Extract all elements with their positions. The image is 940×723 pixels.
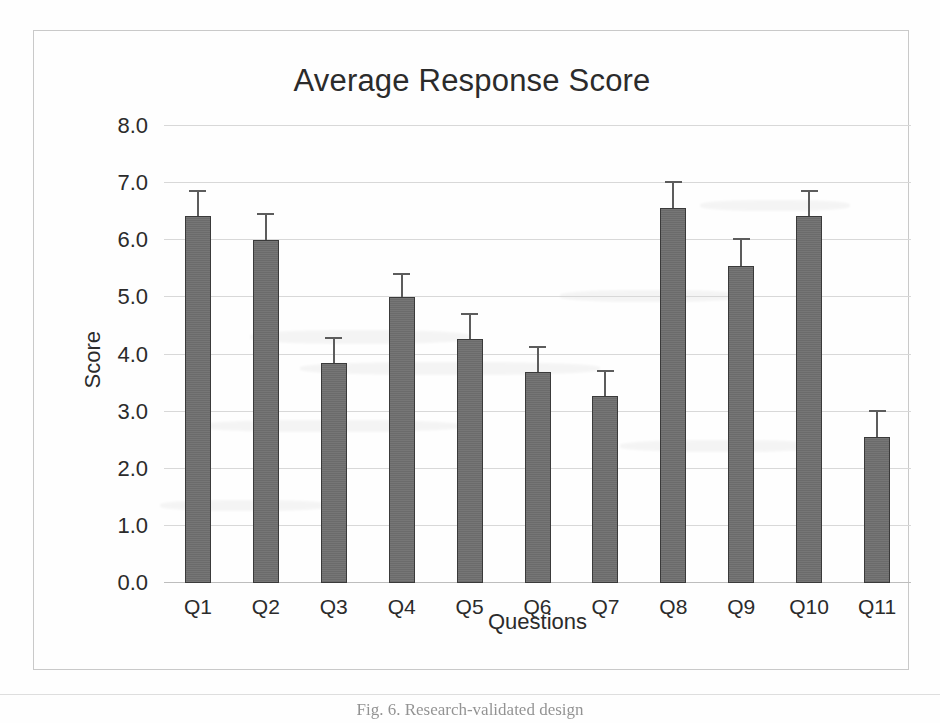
bar-group[interactable]: Q3: [321, 126, 347, 583]
bar[interactable]: [592, 396, 618, 583]
error-bar-stem: [401, 275, 403, 298]
y-axis-title: Score: [80, 331, 106, 388]
bar[interactable]: [796, 216, 822, 583]
error-bar-stem: [333, 339, 335, 363]
error-bar-cap: [733, 238, 750, 240]
x-tick-label: Q6: [523, 595, 551, 619]
error-bar-cap: [869, 410, 886, 412]
error-bar-cap: [597, 370, 614, 372]
x-tick-label: Q5: [456, 595, 484, 619]
error-bar-cap: [461, 313, 478, 315]
bar[interactable]: [728, 266, 754, 583]
bar[interactable]: [185, 216, 211, 583]
figure-frame: Average Response Score Score Questions 8…: [33, 30, 909, 670]
bar[interactable]: [525, 372, 551, 583]
bar-group[interactable]: Q7: [592, 126, 618, 583]
error-bar-cap: [529, 346, 546, 348]
bar[interactable]: [253, 240, 279, 583]
bar-group[interactable]: Q10: [796, 126, 822, 583]
error-bar-stem: [808, 192, 810, 217]
y-tick-label: 1.0: [117, 513, 148, 539]
x-tick-label: Q8: [659, 595, 687, 619]
error-bar-stem: [537, 348, 539, 372]
y-tick-label: 5.0: [117, 284, 148, 310]
error-bar-stem: [469, 315, 471, 340]
error-bar-stem: [604, 372, 606, 397]
x-tick-label: Q4: [388, 595, 416, 619]
bar-group[interactable]: Q4: [389, 126, 415, 583]
bar-group[interactable]: Q2: [253, 126, 279, 583]
chart-title: Average Response Score: [34, 63, 910, 99]
x-tick-label: Q10: [789, 595, 829, 619]
bar[interactable]: [660, 208, 686, 583]
x-tick-label: Q3: [320, 595, 348, 619]
error-bar-cap: [257, 213, 274, 215]
y-tick-label: 6.0: [117, 227, 148, 253]
bar[interactable]: [321, 363, 347, 583]
y-tick-label: 0.0: [117, 570, 148, 596]
y-tick-label: 8.0: [117, 113, 148, 139]
bar-group[interactable]: Q11: [864, 126, 890, 583]
bar[interactable]: [457, 339, 483, 583]
bar-group[interactable]: Q6: [525, 126, 551, 583]
bar-group[interactable]: Q9: [728, 126, 754, 583]
caption-rule: [0, 694, 940, 695]
error-bar-cap: [189, 190, 206, 192]
y-tick-label: 2.0: [117, 456, 148, 482]
error-bar-stem: [197, 192, 199, 216]
error-bar-cap: [393, 273, 410, 275]
x-tick-label: Q7: [591, 595, 619, 619]
error-bar-stem: [740, 240, 742, 266]
bar-group[interactable]: Q1: [185, 126, 211, 583]
bar-group[interactable]: Q8: [660, 126, 686, 583]
y-tick-label: 3.0: [117, 399, 148, 425]
y-tick-label: 4.0: [117, 342, 148, 368]
x-tick-label: Q1: [184, 595, 212, 619]
error-bar-stem: [876, 412, 878, 438]
bar-group[interactable]: Q5: [457, 126, 483, 583]
bar[interactable]: [864, 437, 890, 583]
error-bar-stem: [672, 183, 674, 208]
x-tick-label: Q2: [252, 595, 280, 619]
error-bar-cap: [325, 337, 342, 339]
error-bar-cap: [665, 181, 682, 183]
x-tick-label: Q9: [727, 595, 755, 619]
error-bar-stem: [265, 215, 267, 241]
scanned-page: Average Response Score Score Questions 8…: [0, 0, 940, 723]
x-tick-label: Q11: [858, 595, 896, 619]
figure-caption: Fig. 6. Research-validated design: [0, 700, 940, 720]
bar[interactable]: [389, 297, 415, 583]
y-tick-label: 7.0: [117, 170, 148, 196]
plot-area: Questions 8.07.06.05.04.03.02.01.00.0Q1Q…: [164, 126, 911, 583]
error-bar-cap: [801, 190, 818, 192]
